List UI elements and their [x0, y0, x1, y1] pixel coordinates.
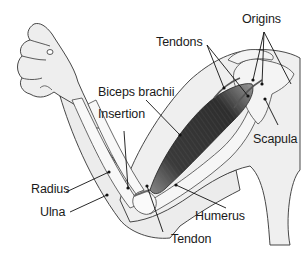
label-tendon: Tendon	[171, 233, 211, 246]
label-insertion: Insertion	[98, 108, 145, 121]
label-tendons: Tendons	[156, 36, 203, 49]
label-humerus: Humerus	[195, 210, 245, 223]
label-origins: Origins	[242, 13, 281, 26]
label-radius: Radius	[31, 183, 69, 196]
label-ulna: Ulna	[40, 206, 65, 219]
label-scapula: Scapula	[253, 133, 297, 146]
label-biceps-brachii: Biceps brachii	[98, 86, 174, 99]
arm-anatomy-diagram: Tendons Origins Biceps brachii Insertion…	[0, 0, 308, 257]
